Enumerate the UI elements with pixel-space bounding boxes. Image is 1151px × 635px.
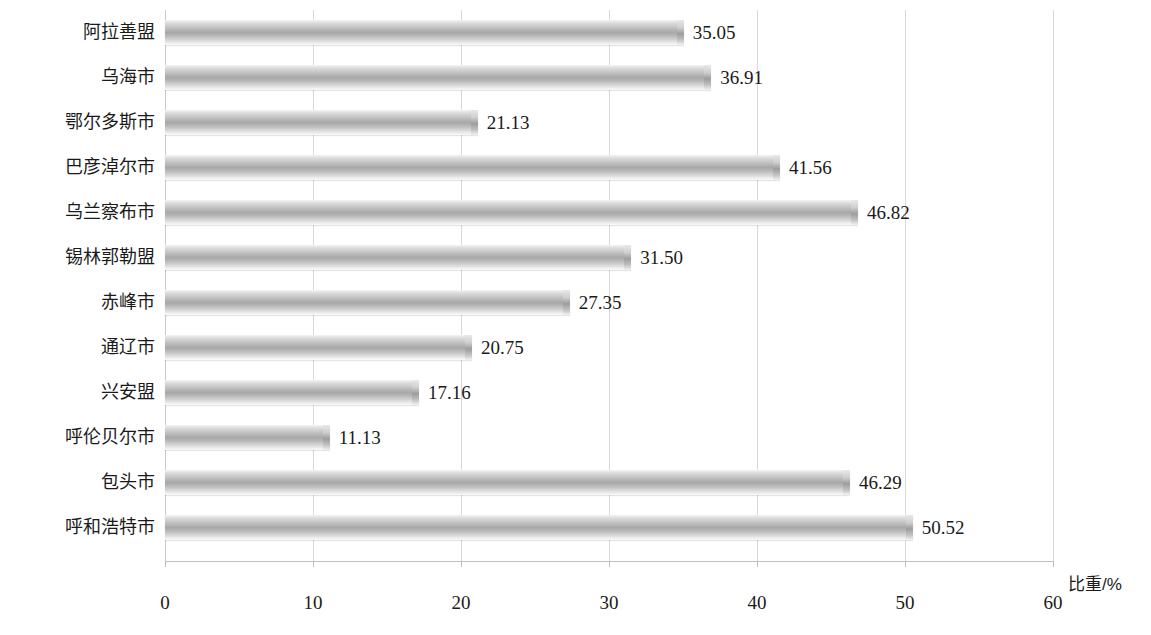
bar-fill: [165, 515, 913, 540]
bar-fill: [165, 470, 850, 495]
bar-fill: [165, 110, 478, 135]
bar: [165, 380, 419, 405]
x-tick: [313, 561, 314, 567]
bar: [165, 155, 780, 180]
category-label: 乌兰察布市: [0, 190, 155, 235]
x-tick-label: 30: [579, 592, 639, 614]
x-tick: [165, 561, 166, 567]
bar: [165, 515, 913, 540]
category-label: 阿拉善盟: [0, 10, 155, 55]
category-label: 赤峰市: [0, 280, 155, 325]
bar-fill: [165, 200, 858, 225]
bar: [165, 290, 570, 315]
x-axis-title: 比重/%: [1068, 570, 1122, 595]
x-tick-label: 10: [283, 592, 343, 614]
horizontal-bar-chart: 阿拉善盟35.05乌海市36.91鄂尔多斯市21.13巴彦淖尔市41.56乌兰察…: [0, 0, 1151, 635]
value-label: 20.75: [472, 325, 524, 370]
bar-row: 阿拉善盟35.05: [0, 10, 1151, 55]
value-label: 27.35: [570, 280, 622, 325]
value-label: 17.16: [419, 370, 471, 415]
bar-row: 呼和浩特市50.52: [0, 505, 1151, 550]
bar-fill: [165, 245, 631, 270]
x-tick: [609, 561, 610, 567]
category-label: 锡林郭勒盟: [0, 235, 155, 280]
category-label: 巴彦淖尔市: [0, 145, 155, 190]
bar-fill: [165, 380, 419, 405]
bar: [165, 335, 472, 360]
value-label: 36.91: [711, 55, 763, 100]
x-tick-label: 0: [135, 592, 195, 614]
bar-fill: [165, 20, 684, 45]
bar-row: 兴安盟17.16: [0, 370, 1151, 415]
bar-fill: [165, 65, 711, 90]
x-tick-label: 60: [1023, 592, 1083, 614]
value-label: 21.13: [478, 100, 530, 145]
value-label: 46.29: [850, 460, 902, 505]
bar-row: 巴彦淖尔市41.56: [0, 145, 1151, 190]
bar: [165, 200, 858, 225]
value-label: 11.13: [330, 415, 381, 460]
bar-fill: [165, 425, 330, 450]
value-label: 50.52: [913, 505, 965, 550]
x-tick: [905, 561, 906, 567]
bar-row: 呼伦贝尔市11.13: [0, 415, 1151, 460]
bar: [165, 20, 684, 45]
bar-fill: [165, 335, 472, 360]
bar: [165, 245, 631, 270]
bar-fill: [165, 155, 780, 180]
value-label: 31.50: [631, 235, 683, 280]
category-label: 兴安盟: [0, 370, 155, 415]
bar-row: 通辽市20.75: [0, 325, 1151, 370]
x-tick-label: 20: [431, 592, 491, 614]
bar: [165, 425, 330, 450]
bar-row: 包头市46.29: [0, 460, 1151, 505]
x-tick: [757, 561, 758, 567]
bar: [165, 110, 478, 135]
bar-fill: [165, 290, 570, 315]
bar-row: 乌兰察布市46.82: [0, 190, 1151, 235]
bar-row: 赤峰市27.35: [0, 280, 1151, 325]
value-label: 35.05: [684, 10, 736, 55]
bar: [165, 65, 711, 90]
value-label: 46.82: [858, 190, 910, 235]
category-label: 鄂尔多斯市: [0, 100, 155, 145]
category-label: 呼伦贝尔市: [0, 415, 155, 460]
bar-row: 锡林郭勒盟31.50: [0, 235, 1151, 280]
category-label: 乌海市: [0, 55, 155, 100]
category-label: 包头市: [0, 460, 155, 505]
value-label: 41.56: [780, 145, 832, 190]
x-tick: [1053, 561, 1054, 567]
x-tick: [461, 561, 462, 567]
bar-row: 乌海市36.91: [0, 55, 1151, 100]
category-label: 通辽市: [0, 325, 155, 370]
bar: [165, 470, 850, 495]
category-label: 呼和浩特市: [0, 505, 155, 550]
bar-row: 鄂尔多斯市21.13: [0, 100, 1151, 145]
x-tick-label: 50: [875, 592, 935, 614]
x-tick-label: 40: [727, 592, 787, 614]
